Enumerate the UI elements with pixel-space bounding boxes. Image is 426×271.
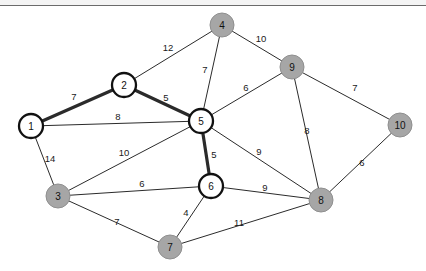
edge-weight-label-5-9: 6 [243,82,248,93]
node-label-4: 4 [219,20,225,31]
graph-node-4[interactable]: 4 [210,13,234,37]
graph-node-6[interactable]: 6 [199,174,223,198]
edge-weight-label-9-8: 8 [304,125,309,136]
graph-node-7[interactable]: 7 [158,235,182,259]
node-label-3: 3 [55,191,61,202]
node-label-5: 5 [198,116,204,127]
figure-background [0,0,426,271]
header-band [0,0,426,5]
graph-node-9[interactable]: 9 [280,55,304,79]
edge-weight-label-2-4: 12 [163,42,174,53]
edge-weight-label-4-5: 7 [202,64,207,75]
edge-weight-label-3-6: 6 [139,178,144,189]
edge-weight-label-1-3: 14 [45,153,56,164]
edge-weight-label-9-10: 7 [352,82,357,93]
edge-weight-label-8-10: 6 [359,157,364,168]
graph-node-8[interactable]: 8 [309,188,333,212]
graph-figure: 781451271065910674911876 12345678910 [0,0,426,271]
node-label-6: 6 [208,181,214,192]
edge-weight-label-4-9: 10 [256,33,267,44]
edge-weight-label-3-7: 7 [114,216,119,227]
graph-node-3[interactable]: 3 [46,184,70,208]
edge-weight-label-1-5: 8 [115,111,120,122]
edge-weight-label-6-8: 9 [262,182,267,193]
edge-weight-label-7-8: 11 [234,217,244,228]
edge-weight-label-2-5: 5 [163,92,168,103]
node-label-7: 7 [167,242,173,253]
graph-canvas: 781451271065910674911876 12345678910 [0,0,426,271]
node-label-8: 8 [318,195,324,206]
node-label-10: 10 [394,120,406,131]
edge-weight-label-6-7: 4 [183,207,188,218]
node-label-1: 1 [28,121,34,132]
edge-weight-label-3-5: 10 [119,147,130,158]
node-label-9: 9 [289,62,295,73]
graph-node-2[interactable]: 2 [112,73,136,97]
edge-weight-label-5-6: 5 [211,149,216,160]
edge-weight-label-5-8: 9 [256,146,261,157]
node-label-2: 2 [121,80,127,91]
graph-node-5[interactable]: 5 [189,109,213,133]
edge-weight-label-1-2: 7 [71,91,76,102]
graph-node-10[interactable]: 10 [388,113,412,137]
graph-node-1[interactable]: 1 [19,114,43,138]
